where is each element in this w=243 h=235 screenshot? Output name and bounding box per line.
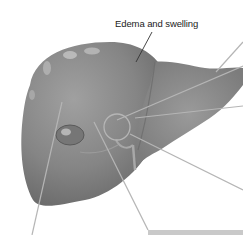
gallbladder-highlight [61, 129, 71, 136]
edema-label: Edema and swelling [115, 18, 198, 29]
highlight [43, 61, 51, 75]
highlight [63, 51, 77, 59]
highlight [84, 48, 100, 55]
leader-line [130, 134, 243, 190]
liver-diagram: Edema and swelling [0, 0, 243, 235]
liver-illustration [0, 0, 243, 235]
gallbladder [56, 125, 84, 145]
highlight [29, 90, 35, 100]
caption-bar [148, 230, 243, 235]
